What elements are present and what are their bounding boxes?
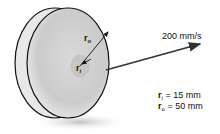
velocity-arrow	[106, 44, 200, 70]
given-outer-radius: ro = 50 mm	[158, 102, 203, 112]
outer-radius-label: ro	[84, 34, 91, 44]
inner-radius-label: ri	[76, 64, 81, 74]
wheel-front-face	[27, 8, 109, 118]
wheel-diagram	[0, 0, 220, 134]
velocity-label: 200 mm/s	[162, 32, 202, 41]
given-inner-radius: ri = 15 mm	[158, 91, 201, 101]
